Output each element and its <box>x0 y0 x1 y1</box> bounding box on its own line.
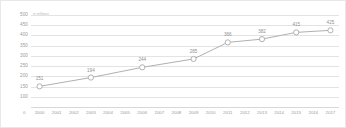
x-axis-tick-label: 2006 <box>137 111 147 115</box>
data-point-label: 382 <box>258 31 266 36</box>
data-point-marker[interactable] <box>328 28 333 33</box>
data-point-label: 194 <box>87 69 95 74</box>
x-axis-tick-label: 2001 <box>52 111 62 115</box>
x-axis-tick-label: 2016 <box>308 111 318 115</box>
x-axis-tick-label: 2014 <box>274 111 284 115</box>
y-axis-tick-label: 400 <box>20 33 28 38</box>
y-axis-tick-labels: 100150200250300350400450500 <box>1 15 31 107</box>
x-axis-tick-label: 2012 <box>240 111 250 115</box>
x-axis-tick-labels: 2000200120022003200420052006200720082009… <box>31 111 339 121</box>
x-axis-tick-label: 2005 <box>120 111 130 115</box>
data-point-marker[interactable] <box>88 75 93 80</box>
data-point-label: 285 <box>190 50 198 55</box>
data-point-marker[interactable] <box>294 30 299 35</box>
plot-area <box>31 15 339 107</box>
y-axis-tick-label: 200 <box>20 74 28 79</box>
y-axis-tick-label: 250 <box>20 64 28 69</box>
x-axis-tick-label: 2015 <box>291 111 301 115</box>
data-point-label: 151 <box>36 78 44 83</box>
axis-baseline <box>31 107 339 108</box>
series-layer <box>31 15 339 107</box>
data-point-marker[interactable] <box>37 84 42 89</box>
y-axis-tick-label: 300 <box>20 54 28 59</box>
data-point-marker[interactable] <box>140 65 145 70</box>
x-axis-tick-label: 2009 <box>189 111 199 115</box>
data-point-label: 415 <box>292 24 300 29</box>
series-markers <box>37 28 333 89</box>
y-axis-tick-label: 150 <box>20 84 28 89</box>
line-chart: 100150200250300350400450500 in millions … <box>0 0 346 128</box>
x-axis-tick-label: 2000 <box>35 111 45 115</box>
x-axis-tick-label: 2011 <box>223 111 232 115</box>
x-axis-tick-label: 2004 <box>103 111 113 115</box>
x-axis-tick-label: 2010 <box>206 111 216 115</box>
x-axis-origin-label: 0 <box>23 111 25 115</box>
y-axis-tick-label: 450 <box>20 23 28 28</box>
data-point-marker[interactable] <box>225 40 230 45</box>
x-axis-tick-label: 2007 <box>154 111 164 115</box>
x-axis-tick-label: 2002 <box>69 111 79 115</box>
data-point-marker[interactable] <box>191 56 196 61</box>
x-axis-tick-label: 2003 <box>86 111 96 115</box>
data-point-label: 366 <box>224 34 232 39</box>
data-point-marker[interactable] <box>259 37 264 42</box>
data-point-label: 425 <box>327 22 335 27</box>
x-axis-tick-label: 2013 <box>257 111 267 115</box>
y-axis-tick-label: 100 <box>20 94 28 99</box>
x-axis-tick-label: 2008 <box>172 111 182 115</box>
data-point-label: 244 <box>138 59 146 64</box>
series-line <box>40 30 331 86</box>
y-axis-tick-label: 500 <box>20 13 28 18</box>
y-axis-tick-label: 350 <box>20 43 28 48</box>
x-axis-tick-label: 2017 <box>326 111 336 115</box>
